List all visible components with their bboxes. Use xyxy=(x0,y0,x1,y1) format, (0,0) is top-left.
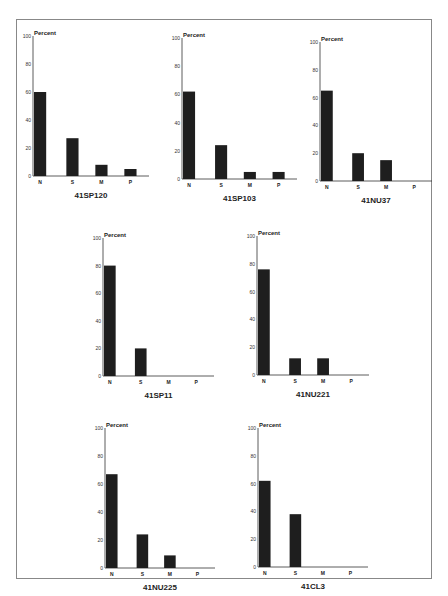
y-tick-label: 0 xyxy=(100,565,103,571)
chart-title: 41SP103 xyxy=(223,194,256,203)
bar-chart-41sp103: Percent020406080100NSMP41SP103 xyxy=(182,30,307,205)
bar-n xyxy=(259,481,271,567)
y-tick-label: 80 xyxy=(249,261,255,267)
y-tick-label: 60 xyxy=(25,89,31,95)
y-tick-label: 0 xyxy=(177,176,180,182)
y-tick-label: 20 xyxy=(250,536,256,542)
y-tick-label: 60 xyxy=(249,289,255,295)
bar-n xyxy=(104,266,116,376)
y-tick-label: 100 xyxy=(310,39,319,45)
x-category-label: N xyxy=(110,571,114,577)
y-tick-label: 0 xyxy=(98,373,101,379)
y-tick-label: 40 xyxy=(174,120,180,126)
y-tick-label: 100 xyxy=(248,425,257,431)
bar-s xyxy=(135,348,147,376)
x-category-label: P xyxy=(196,571,200,577)
y-tick-label: 20 xyxy=(174,148,180,154)
bar-s xyxy=(352,153,364,181)
y-tick-label: 80 xyxy=(97,453,103,459)
bar-m xyxy=(317,358,329,375)
y-axis-label: Percent xyxy=(259,422,281,428)
chart-title: 41NU225 xyxy=(143,583,177,592)
y-tick-label: 40 xyxy=(250,508,256,514)
chart-title: 41NU221 xyxy=(296,390,330,399)
y-tick-label: 80 xyxy=(250,453,256,459)
x-category-label: N xyxy=(325,184,329,190)
x-category-label: S xyxy=(294,570,298,576)
y-tick-label: 40 xyxy=(312,122,318,128)
x-category-label: N xyxy=(108,379,112,385)
bar-s xyxy=(137,534,149,568)
x-category-label: P xyxy=(412,184,416,190)
y-tick-label: 100 xyxy=(95,425,104,431)
chart-title: 41NU37 xyxy=(361,196,391,205)
y-tick-label: 40 xyxy=(249,316,255,322)
y-tick-label: 0 xyxy=(253,564,256,570)
y-tick-label: 60 xyxy=(95,290,101,296)
y-axis-label: Percent xyxy=(258,230,280,236)
y-tick-label: 20 xyxy=(25,145,31,151)
bar-chart-41nu37: Percent020406080100NSMP41NU37 xyxy=(320,34,442,207)
y-tick-label: 100 xyxy=(93,235,102,241)
x-category-label: S xyxy=(219,182,223,188)
bar-s xyxy=(290,514,302,567)
x-category-label: S xyxy=(139,379,143,385)
chart-title: 41CL3 xyxy=(301,582,326,591)
y-tick-label: 60 xyxy=(174,91,180,97)
bar-chart-41nu221: Percent020406080100NSMP41NU221 xyxy=(257,228,379,401)
bar-m xyxy=(244,172,256,179)
x-category-label: M xyxy=(168,571,172,577)
y-axis-label: Percent xyxy=(321,36,343,42)
y-axis-label: Percent xyxy=(34,30,56,36)
x-category-label: M xyxy=(384,184,388,190)
chart-title: 41SP11 xyxy=(144,391,173,400)
y-tick-label: 100 xyxy=(23,33,32,39)
y-tick-label: 0 xyxy=(252,372,255,378)
x-category-label: N xyxy=(38,179,42,185)
y-tick-label: 100 xyxy=(247,233,256,239)
y-tick-label: 40 xyxy=(25,117,31,123)
bar-chart-41cl3: Percent020406080100NSMP41CL3 xyxy=(258,420,378,593)
y-tick-label: 20 xyxy=(95,345,101,351)
y-tick-label: 80 xyxy=(25,61,31,67)
y-tick-label: 60 xyxy=(250,481,256,487)
bar-chart-41sp120: Percent020406080100NSMP41SP120 xyxy=(33,28,159,202)
bar-chart-41sp11: Percent020406080100NSMP41SP11 xyxy=(103,230,224,402)
y-tick-label: 0 xyxy=(28,173,31,179)
bar-n xyxy=(258,269,270,375)
chart-title: 41SP120 xyxy=(75,191,108,200)
y-tick-label: 40 xyxy=(95,318,101,324)
x-category-label: N xyxy=(263,570,267,576)
bar-m xyxy=(164,555,176,568)
y-tick-label: 20 xyxy=(312,150,318,156)
x-category-label: S xyxy=(356,184,360,190)
x-category-label: M xyxy=(248,182,252,188)
y-tick-label: 80 xyxy=(95,263,101,269)
bar-p xyxy=(124,169,136,176)
bar-n xyxy=(106,474,118,568)
y-axis-label: Percent xyxy=(104,232,126,238)
x-category-label: N xyxy=(187,182,191,188)
x-category-label: M xyxy=(99,179,103,185)
x-category-label: M xyxy=(166,379,170,385)
y-tick-label: 80 xyxy=(174,63,180,69)
x-category-label: P xyxy=(349,570,353,576)
y-tick-label: 80 xyxy=(312,67,318,73)
bar-m xyxy=(380,160,392,181)
x-category-label: S xyxy=(71,179,75,185)
bar-p xyxy=(273,172,285,179)
x-category-label: P xyxy=(129,179,133,185)
y-axis-label: Percent xyxy=(106,422,128,428)
bar-s xyxy=(289,358,301,375)
y-tick-label: 60 xyxy=(97,481,103,487)
y-tick-label: 20 xyxy=(97,537,103,543)
y-axis-label: Percent xyxy=(183,32,205,38)
bar-s xyxy=(66,138,78,176)
y-tick-label: 20 xyxy=(249,344,255,350)
bar-n xyxy=(183,92,195,179)
x-category-label: P xyxy=(195,379,199,385)
x-category-label: N xyxy=(262,378,266,384)
x-category-label: P xyxy=(349,378,353,384)
x-category-label: S xyxy=(141,571,145,577)
bar-n xyxy=(34,92,46,176)
